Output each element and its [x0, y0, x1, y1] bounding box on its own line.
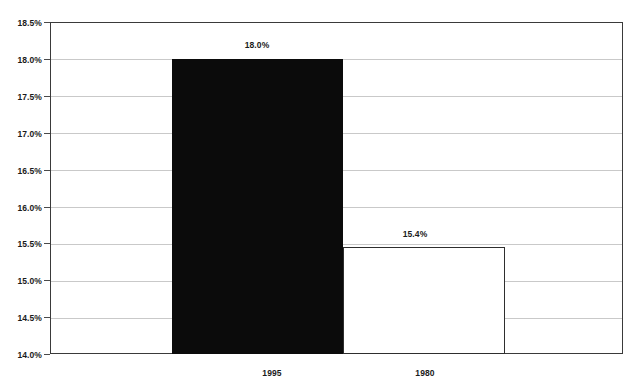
y-tick-label: 15.5% — [0, 240, 42, 249]
y-tick-label: 14.5% — [0, 314, 42, 323]
y-tick-label: 16.0% — [0, 204, 42, 213]
bar-value-label-1995: 18.0% — [207, 41, 307, 50]
y-tick-label: 16.5% — [0, 167, 42, 176]
bar-1980[interactable] — [343, 247, 505, 354]
y-tick-mark — [44, 354, 50, 355]
bar-1995[interactable] — [172, 59, 343, 354]
y-tick-label: 18.5% — [0, 19, 42, 28]
x-category-label-1995: 1995 — [222, 369, 322, 378]
y-tick-label: 18.0% — [0, 56, 42, 65]
plot-area — [50, 22, 623, 354]
bar-value-label-1980: 15.4% — [365, 230, 465, 239]
bar-chart: 18.5% 18.0% 17.5% 17.0% 16.5% 16.0% 15.5… — [0, 0, 636, 390]
y-tick-label: 17.0% — [0, 130, 42, 139]
y-tick-label: 14.0% — [0, 351, 42, 360]
x-category-label-1980: 1980 — [375, 369, 475, 378]
y-tick-label: 15.0% — [0, 277, 42, 286]
y-tick-label: 17.5% — [0, 93, 42, 102]
